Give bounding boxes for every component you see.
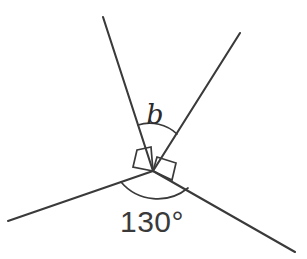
right-angle-marker-right-icon: [153, 157, 176, 180]
angle-diagram: b 130°: [0, 0, 307, 259]
upper-right-ray: [153, 33, 240, 171]
angle-label-b: b: [146, 99, 163, 130]
angle-label-130-degrees: 130°: [120, 205, 184, 238]
geometry-canvas: b 130°: [0, 0, 307, 259]
